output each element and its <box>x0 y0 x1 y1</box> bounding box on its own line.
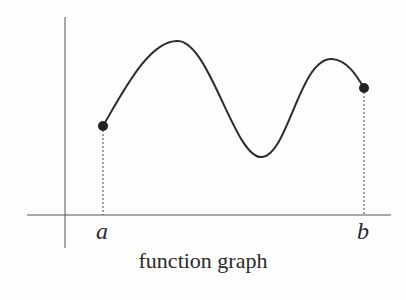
label-a: a <box>96 218 108 245</box>
endpoint-a <box>98 121 108 131</box>
endpoint-b <box>359 83 369 93</box>
label-b: b <box>357 218 369 245</box>
caption: function graph <box>0 248 406 274</box>
function-curve <box>103 41 364 157</box>
